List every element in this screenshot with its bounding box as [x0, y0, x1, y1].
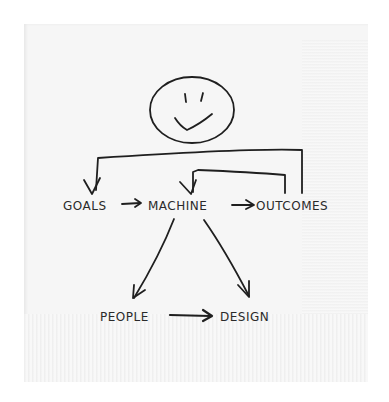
node-design: DESIGN — [220, 310, 269, 324]
node-machine: MACHINE — [148, 199, 207, 213]
node-goals: GOALS — [63, 199, 107, 213]
feedback-arrow-machine — [180, 170, 285, 194]
arrow-machine-design — [204, 220, 249, 297]
arrow-machine-people — [133, 219, 174, 298]
arrow-goals-machine — [122, 199, 141, 207]
smiley-face-icon — [150, 77, 234, 143]
arrow-people-design — [170, 310, 212, 321]
sketch-diagram: GOALS MACHINE OUTCOMES PEOPLE DESIGN — [0, 0, 389, 402]
node-people: PEOPLE — [100, 310, 149, 324]
node-outcomes: OUTCOMES — [256, 199, 328, 213]
arrow-machine-outcomes — [232, 200, 254, 209]
